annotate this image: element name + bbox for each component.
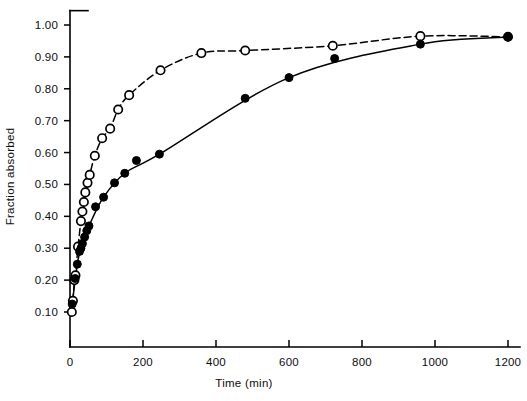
data-point-open-circles — [106, 124, 114, 132]
data-point-filled-circles — [85, 222, 93, 230]
y-tick-label: 0.90 — [35, 51, 58, 63]
x-axis-title: Time (min) — [215, 377, 273, 389]
data-point-open-circles — [77, 217, 85, 225]
data-point-open-circles — [80, 198, 88, 206]
data-point-open-circles — [83, 179, 91, 187]
y-tick-label: 0.10 — [35, 306, 58, 318]
data-point-open-circles — [68, 308, 76, 316]
x-tick-label: 400 — [206, 356, 226, 368]
data-point-open-circles — [81, 188, 89, 196]
y-tick-label: 1.00 — [35, 19, 58, 31]
x-tick-label: 800 — [352, 356, 372, 368]
data-point-filled-circles — [331, 54, 339, 62]
data-point-filled-circles — [73, 260, 81, 268]
data-point-open-circles — [125, 91, 133, 99]
y-tick-label: 0.40 — [35, 210, 58, 222]
data-point-open-circles — [197, 49, 205, 57]
data-point-filled-circles — [241, 94, 249, 102]
x-tick-label: 200 — [133, 356, 153, 368]
data-point-open-circles — [98, 134, 106, 142]
series-markers — [68, 32, 513, 316]
x-tick-label: 0 — [67, 356, 74, 368]
data-point-filled-circles — [68, 300, 76, 308]
y-tick-label: 0.30 — [35, 242, 58, 254]
y-axis-ticks: 0.100.200.300.400.500.600.700.800.901.00 — [35, 19, 70, 318]
data-point-filled-circles — [155, 150, 163, 158]
x-axis-ticks: 020040060080010001200 — [67, 340, 522, 368]
x-tick-label: 600 — [279, 356, 299, 368]
data-point-open-circles — [86, 171, 94, 179]
y-tick-label: 0.20 — [35, 274, 58, 286]
data-point-filled-circles — [504, 33, 512, 41]
data-point-open-circles — [241, 46, 249, 54]
data-point-filled-circles — [285, 74, 293, 82]
data-point-filled-circles — [121, 169, 129, 177]
y-tick-label: 0.60 — [35, 147, 58, 159]
chart-svg: 0.100.200.300.400.500.600.700.800.901.00… — [0, 0, 527, 401]
data-point-open-circles — [78, 207, 86, 215]
absorption-chart-figure: 0.100.200.300.400.500.600.700.800.901.00… — [0, 0, 527, 401]
data-point-open-circles — [156, 66, 164, 74]
y-tick-label: 0.80 — [35, 83, 58, 95]
x-tick-label: 1200 — [495, 356, 521, 368]
data-point-filled-circles — [71, 275, 79, 283]
y-axis-title: Fraction absorbed — [4, 128, 16, 226]
y-tick-label: 0.50 — [35, 178, 58, 190]
data-point-filled-circles — [132, 157, 140, 165]
data-point-open-circles — [91, 152, 99, 160]
data-point-filled-circles — [111, 179, 119, 187]
y-tick-label: 0.70 — [35, 115, 58, 127]
data-point-open-circles — [114, 105, 122, 113]
data-point-filled-circles — [416, 40, 424, 48]
data-point-open-circles — [416, 32, 424, 40]
data-point-open-circles — [329, 42, 337, 50]
axes — [70, 11, 520, 347]
data-point-filled-circles — [100, 193, 108, 201]
x-tick-label: 1000 — [422, 356, 448, 368]
data-point-filled-circles — [92, 203, 100, 211]
